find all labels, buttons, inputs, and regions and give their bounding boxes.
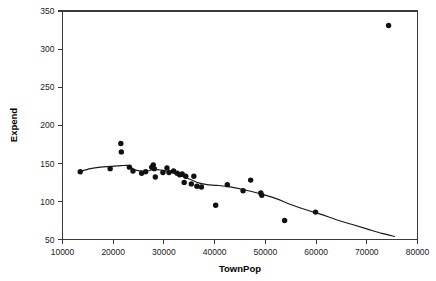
scatter-chart: 1000020000300004000050000600007000080000…: [0, 0, 436, 281]
data-point: [282, 218, 287, 223]
data-point: [225, 182, 230, 187]
data-point: [199, 184, 204, 189]
y-tick-label: 300: [40, 44, 54, 54]
y-tick-label: 350: [40, 6, 54, 16]
y-axis-title: Expend: [8, 108, 19, 143]
data-point: [259, 193, 264, 198]
y-tick-label: 150: [40, 159, 54, 169]
y-tick-label: 100: [40, 197, 54, 207]
data-point: [248, 177, 253, 182]
data-point: [143, 169, 148, 174]
data-point: [119, 149, 124, 154]
x-axis-title: TownPop: [219, 263, 261, 274]
data-point: [107, 166, 112, 171]
data-point: [194, 183, 199, 188]
x-tick-label: 50000: [254, 247, 278, 257]
data-point: [130, 168, 135, 173]
data-point: [213, 203, 218, 208]
y-tick-label: 50: [45, 235, 55, 245]
x-tick-label: 40000: [203, 247, 227, 257]
data-point: [160, 170, 165, 175]
y-tick-label: 200: [40, 120, 54, 130]
data-point: [118, 141, 123, 146]
data-point: [240, 188, 245, 193]
data-point: [189, 181, 194, 186]
data-point: [386, 23, 391, 28]
x-tick-label: 60000: [304, 247, 328, 257]
x-tick-label: 70000: [355, 247, 379, 257]
data-point: [191, 174, 196, 179]
plot-canvas: 1000020000300004000050000600007000080000…: [0, 0, 436, 281]
x-tick-label: 80000: [406, 247, 430, 257]
data-point: [153, 174, 158, 179]
x-tick-label: 10000: [51, 247, 75, 257]
data-point: [78, 169, 83, 174]
data-point: [182, 180, 187, 185]
data-point: [152, 166, 157, 171]
x-tick-label: 20000: [101, 247, 125, 257]
chart-background: [0, 0, 436, 281]
data-point: [183, 174, 188, 179]
data-point: [313, 209, 318, 214]
x-tick-label: 30000: [152, 247, 176, 257]
y-tick-label: 250: [40, 82, 54, 92]
